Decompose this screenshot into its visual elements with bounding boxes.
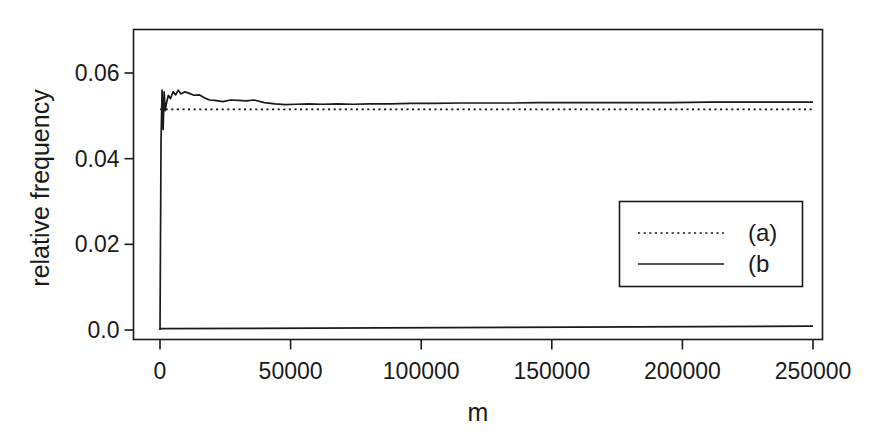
y-tick-label: 0.06 <box>75 62 120 85</box>
x-axis-ticks <box>160 340 813 350</box>
x-axis-title: m <box>468 398 489 427</box>
plot-frame <box>134 30 823 340</box>
legend-label: (a) <box>748 219 777 247</box>
y-axis-ticks <box>125 73 134 330</box>
y-tick-label: 0.0 <box>88 319 120 342</box>
chart-figure: 0.00.020.040.06 050000100000150000200000… <box>0 0 881 444</box>
y-tick-label: 0.02 <box>75 233 120 256</box>
legend-label: (b <box>748 250 769 278</box>
series-line-3 <box>160 326 813 329</box>
x-tick-label: 50000 <box>259 360 323 383</box>
x-tick-label: 100000 <box>383 360 460 383</box>
y-tick-label: 0.04 <box>75 147 120 170</box>
x-tick-label: 150000 <box>513 360 590 383</box>
y-axis-title: relative frequency <box>26 89 55 286</box>
x-tick-label: 0 <box>154 360 167 383</box>
x-tick-label: 200000 <box>644 360 721 383</box>
x-tick-label: 250000 <box>775 360 852 383</box>
